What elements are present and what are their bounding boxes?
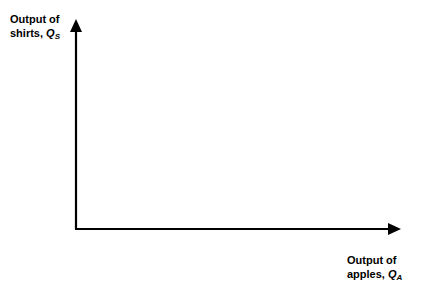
x-axis-arrowhead: [388, 223, 401, 235]
y-axis-label: Output of shirts, QS: [10, 12, 60, 44]
axes-diagram: [0, 0, 424, 285]
y-axis-subscript: S: [55, 32, 60, 41]
y-axis-label-line2: shirts,: [10, 27, 46, 39]
y-axis-label-line1: Output of: [10, 12, 60, 26]
x-axis-label-line2: apples,: [347, 268, 388, 280]
x-axis-label: Output of apples, QA: [347, 253, 402, 285]
x-axis-subscript: A: [397, 273, 403, 282]
y-axis-symbol: Q: [46, 27, 55, 39]
y-axis-arrowhead: [70, 19, 82, 32]
x-axis-label-line1: Output of: [347, 253, 402, 267]
x-axis-symbol: Q: [388, 268, 397, 280]
